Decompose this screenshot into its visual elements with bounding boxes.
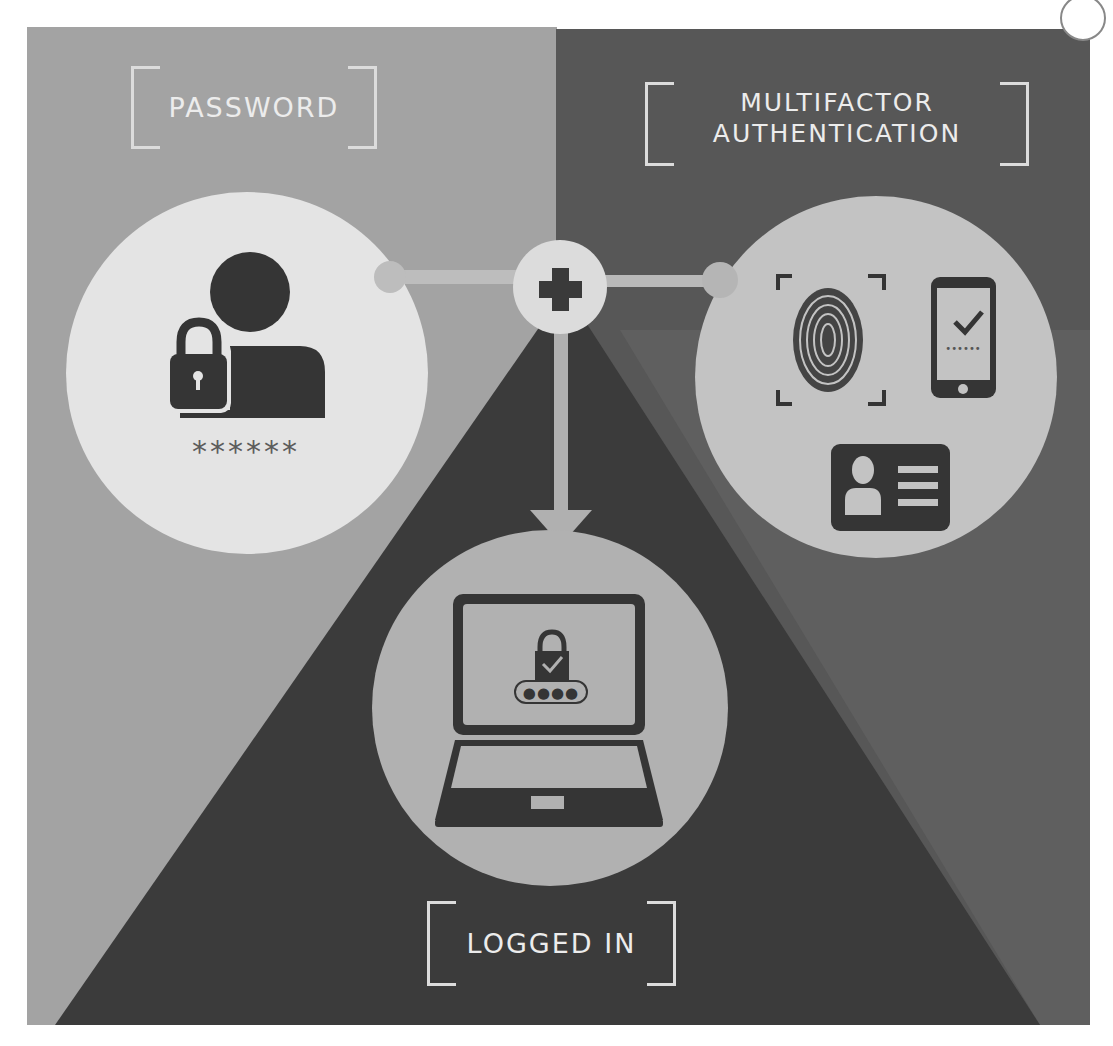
password-label: PASSWORD bbox=[131, 66, 377, 149]
logged-in-label: LOGGED IN bbox=[427, 901, 676, 986]
connector-line-right bbox=[590, 275, 720, 287]
laptop-icon bbox=[435, 594, 663, 827]
password-mask: ****** bbox=[192, 434, 300, 469]
pin-field: ●●●● bbox=[515, 681, 587, 703]
pin-mask: ●●●● bbox=[523, 684, 579, 702]
phone-code-mask: •••••• bbox=[945, 343, 980, 354]
connector-node-right bbox=[702, 262, 738, 298]
mfa-label: MULTIFACTOR AUTHENTICATION bbox=[645, 82, 1029, 166]
logged-in-label-text: LOGGED IN bbox=[427, 901, 676, 986]
mfa-label-line1: MULTIFACTOR bbox=[645, 82, 1029, 116]
smartphone-check-icon: •••••• bbox=[931, 277, 996, 398]
mfa-label-line2: AUTHENTICATION bbox=[645, 116, 1029, 152]
connector-line-left bbox=[390, 270, 530, 284]
connector-node-left bbox=[374, 261, 406, 293]
corner-badge bbox=[1061, 0, 1105, 40]
password-label-text: PASSWORD bbox=[131, 66, 377, 149]
connector-line-down bbox=[554, 320, 568, 510]
id-card-icon bbox=[831, 444, 950, 531]
